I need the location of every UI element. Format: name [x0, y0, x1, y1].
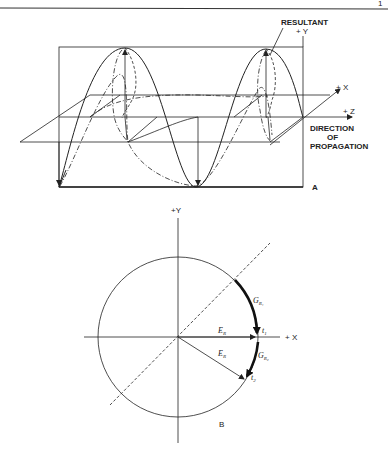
vector-3 [234, 95, 262, 117]
label-plus-y-b: +Y [171, 206, 182, 215]
dashed-arc-peak-1 [122, 48, 136, 118]
label-plus-x-b: + X [285, 333, 298, 342]
label-gr1: GR₁ [253, 296, 264, 306]
dashed-arc-peak-2 [266, 49, 275, 118]
figure-canvas: 1 [0, 0, 388, 455]
helix-dashdot-3 [258, 50, 272, 142]
label-plus-x-a: + X [336, 83, 349, 92]
page-number: 1 [378, 0, 383, 8]
label-plus-y-a: + Y [296, 27, 309, 36]
x-vector-to-peak [270, 117, 303, 142]
figure-b [84, 218, 280, 443]
er-vector-t2 [178, 337, 244, 379]
gr2-arc [247, 342, 258, 376]
helix-dashdot-4 [90, 95, 268, 117]
label-propagation: PROPAGATION [310, 142, 369, 151]
label-of: OF [327, 133, 338, 142]
peak-2-to-bottom [268, 117, 270, 140]
label-direction: DIRECTION [310, 124, 354, 133]
vector-curve [128, 117, 198, 142]
label-plus-z-a: + Z [343, 107, 355, 116]
label-er-2: ER [217, 349, 226, 359]
panel-label-b: B [219, 420, 224, 429]
label-resultant: RESULTANT [281, 18, 328, 27]
label-gr2: GR₂ [258, 351, 269, 361]
vector-1 [90, 95, 120, 117]
label-t1: t1 [262, 326, 267, 336]
gr1-arc [235, 280, 257, 333]
figure-a [20, 28, 352, 187]
page-header-rule [0, 8, 388, 9]
resultant-leader [270, 28, 283, 55]
dashed-diagonal [110, 243, 270, 405]
vector-2 [128, 117, 157, 142]
xz-plane-left-edge [20, 95, 90, 142]
panel-label-a: A [312, 183, 318, 192]
label-er-1: ER [217, 326, 226, 336]
helix-dashdot-1 [60, 74, 272, 186]
label-t2: t2 [251, 373, 256, 383]
